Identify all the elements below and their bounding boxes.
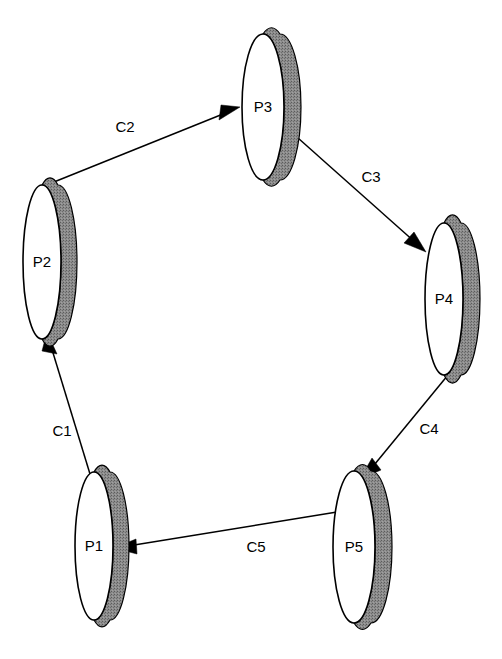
node-P2-label: P2 bbox=[33, 253, 51, 270]
edge-C1-label: C1 bbox=[52, 422, 71, 439]
node-P5[interactable]: P5 bbox=[333, 464, 392, 629]
edge-C5-label: C5 bbox=[246, 538, 265, 555]
edge-C2-arrowhead bbox=[219, 105, 240, 120]
node-P5-label: P5 bbox=[345, 538, 363, 555]
diagram-canvas: C1 C2 C3 C4 C5 bbox=[0, 0, 502, 659]
edge-C2-line bbox=[44, 112, 228, 186]
node-P3-label: P3 bbox=[254, 98, 272, 115]
node-P1[interactable]: P1 bbox=[75, 465, 129, 627]
node-P4[interactable]: P4 bbox=[425, 215, 480, 383]
edge-C3-line bbox=[289, 130, 416, 243]
edge-C4-label: C4 bbox=[419, 420, 438, 437]
edge-C3-label: C3 bbox=[361, 168, 380, 185]
edge-C5-line bbox=[128, 512, 337, 546]
edge-C3[interactable]: C3 bbox=[289, 130, 426, 252]
node-P3[interactable]: P3 bbox=[242, 28, 301, 186]
edge-C1-line bbox=[50, 343, 90, 474]
edge-C1[interactable]: C1 bbox=[42, 332, 90, 474]
node-P4-label: P4 bbox=[435, 290, 453, 307]
node-P1-label: P1 bbox=[85, 537, 103, 554]
node-P2[interactable]: P2 bbox=[23, 178, 77, 346]
edge-C5[interactable]: C5 bbox=[114, 512, 337, 555]
process-cycle-diagram: C1 C2 C3 C4 C5 bbox=[0, 0, 502, 659]
edge-C4[interactable]: C4 bbox=[360, 375, 448, 479]
edge-C2-label: C2 bbox=[115, 118, 134, 135]
edge-C2[interactable]: C2 bbox=[44, 105, 240, 186]
